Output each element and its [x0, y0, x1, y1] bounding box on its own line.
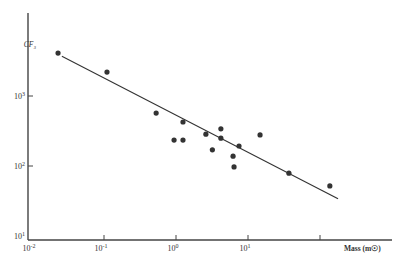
axes	[28, 13, 392, 240]
data-point	[286, 171, 291, 176]
y-tick-label: 102	[14, 161, 25, 171]
data-point	[203, 132, 208, 137]
x-tick-label: 100	[168, 243, 179, 253]
data-point	[55, 51, 60, 56]
scatter-chart: 10110210310-210-1100101CF₃Mass (m☉)	[0, 0, 402, 264]
fit-line	[62, 56, 338, 199]
data-point	[180, 119, 185, 124]
axis-labels: 10110210310-210-1100101CF₃Mass (m☉)	[14, 40, 381, 253]
data-points	[55, 51, 332, 189]
x-tick-label: 101	[240, 243, 251, 253]
data-point	[210, 147, 215, 152]
data-point	[327, 183, 332, 188]
data-point	[230, 154, 235, 159]
data-point	[218, 126, 223, 131]
y-tick-label: 101	[14, 231, 25, 241]
x-tick-label: 10-2	[23, 243, 36, 253]
data-point	[154, 110, 159, 115]
data-point	[218, 136, 223, 141]
data-point	[171, 137, 176, 142]
data-point	[104, 69, 109, 74]
data-point	[180, 137, 185, 142]
data-point	[236, 143, 241, 148]
data-point	[257, 132, 262, 137]
x-tick-label: 10-1	[95, 243, 108, 253]
y-tick-label: 103	[14, 91, 25, 101]
y-axis-title: CF₃	[24, 40, 37, 49]
regression-line	[62, 56, 338, 199]
x-axis-title: Mass (m☉)	[344, 244, 381, 253]
data-point	[231, 164, 236, 169]
